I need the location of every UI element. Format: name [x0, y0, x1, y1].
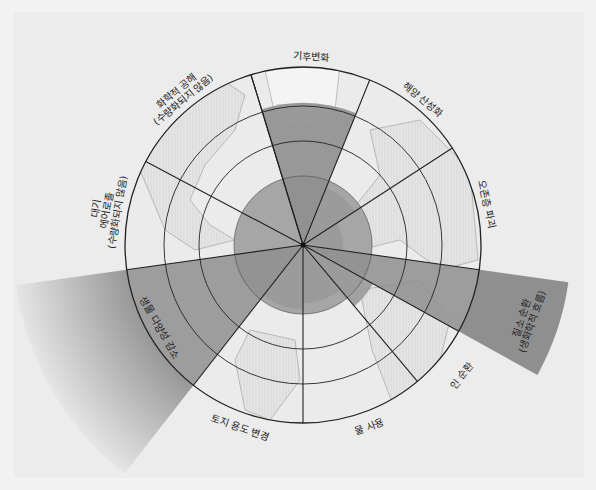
center-point: [301, 243, 306, 248]
label-aerosol: 대기에어로졸(수량화되지 않음): [89, 175, 130, 250]
sector-label-line: 기후변화: [293, 50, 329, 63]
sector-label-line: 인 순환: [448, 361, 476, 391]
planetary-boundaries-diagram: 기후변화해양 산성화오존층 파괴질소 순환(생화학적 흐름)인 순환물 사용토지…: [0, 0, 596, 490]
sector-label-line: 물 사용: [353, 416, 385, 437]
label-water: 물 사용: [353, 416, 385, 437]
label-climate: 기후변화: [293, 50, 329, 63]
label-phosphorus: 인 순환: [448, 361, 476, 391]
